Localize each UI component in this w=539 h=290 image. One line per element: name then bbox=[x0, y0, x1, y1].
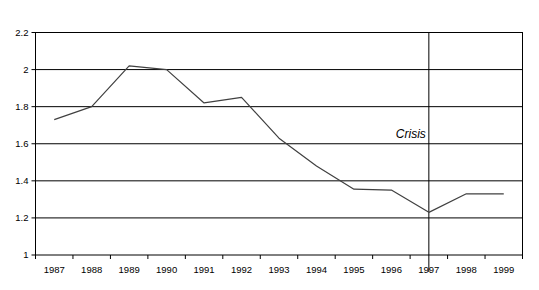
chart-canvas bbox=[0, 0, 539, 290]
y-axis-tick-label: 1.2 bbox=[15, 213, 28, 223]
line-chart: 11.21.41.61.822.2 1987198819891990199119… bbox=[0, 0, 539, 290]
x-axis-tick-label: 1997 bbox=[410, 265, 447, 275]
x-axis-tick-label: 1992 bbox=[223, 265, 260, 275]
x-axis-ticks bbox=[36, 255, 523, 259]
x-axis-tick-label: 1996 bbox=[373, 265, 410, 275]
y-axis-tick-label: 1 bbox=[23, 250, 28, 260]
x-axis-tick-label: 1995 bbox=[335, 265, 372, 275]
x-axis-tick-label: 1987 bbox=[36, 265, 73, 275]
y-axis-ticks bbox=[32, 33, 36, 256]
x-axis-tick-label: 1990 bbox=[148, 265, 185, 275]
x-axis-tick-label: 1991 bbox=[185, 265, 222, 275]
y-axis-tick-label: 1.8 bbox=[15, 102, 28, 112]
x-axis-tick-label: 1998 bbox=[448, 265, 485, 275]
x-axis-tick-label: 1989 bbox=[110, 265, 147, 275]
y-axis-tick-label: 2.2 bbox=[15, 28, 28, 38]
x-axis-tick-label: 1999 bbox=[485, 265, 522, 275]
y-axis-tick-label: 1.6 bbox=[15, 139, 28, 149]
x-axis-tick-label: 1993 bbox=[260, 265, 297, 275]
x-axis-tick-label: 1988 bbox=[73, 265, 110, 275]
x-axis-tick-label: 1994 bbox=[298, 265, 335, 275]
crisis-annotation-label: Crisis bbox=[396, 127, 426, 141]
y-axis-tick-label: 1.4 bbox=[15, 176, 28, 186]
y-axis-tick-label: 2 bbox=[23, 65, 28, 75]
